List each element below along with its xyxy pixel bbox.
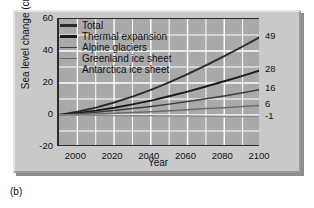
y-tick-label: 20 (19, 77, 53, 87)
legend-item: Antarctica ice sheet (60, 64, 172, 75)
legend-swatch-icon (60, 58, 77, 60)
legend-label: Total (82, 20, 103, 31)
x-tick-label: 2100 (239, 151, 279, 161)
y-tick-label: 0 (19, 109, 53, 119)
x-tick-label: 2080 (202, 151, 242, 161)
figure-caption: (b) (10, 186, 22, 197)
y-tick-label: 60 (19, 13, 53, 23)
legend-item: Greenland ice sheet (60, 53, 172, 64)
legend-label: Greenland ice sheet (82, 53, 172, 64)
legend-item: Alpine glaciers (60, 42, 172, 53)
legend-label: Alpine glaciers (82, 42, 147, 53)
legend-label: Antarctica ice sheet (82, 64, 169, 75)
legend-swatch-icon (60, 35, 77, 37)
legend-swatch-icon (60, 69, 77, 71)
figure-panel-b: Sea level change (cm) 60 40 20 0 -20 200… (0, 0, 314, 208)
y-tick-label: 40 (19, 45, 53, 55)
chart-legend: TotalThermal expansionAlpine glaciersGre… (60, 20, 172, 75)
legend-item: Thermal expansion (60, 31, 172, 42)
series-end-label: 6 (265, 99, 270, 109)
legend-swatch-icon (60, 47, 77, 49)
series-end-label: -1 (265, 111, 273, 121)
legend-item: Total (60, 20, 172, 31)
series-end-label: 16 (265, 83, 276, 93)
legend-label: Thermal expansion (82, 31, 167, 42)
y-tick-label: -20 (19, 141, 53, 151)
legend-swatch-icon (60, 24, 77, 26)
x-axis-title: Year (118, 157, 198, 168)
x-tick-label: 2000 (55, 151, 95, 161)
series-end-label: 28 (265, 64, 276, 74)
series-end-label: 49 (265, 31, 276, 41)
